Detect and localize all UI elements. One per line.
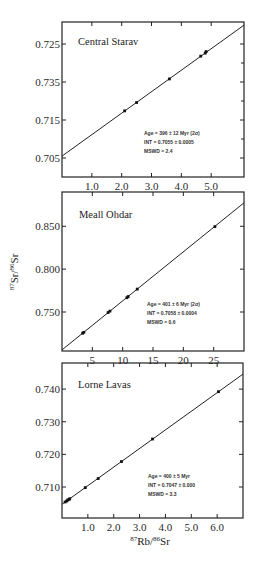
x-tick-label: 4.0 [174,180,188,192]
data-point [135,101,138,104]
axis-label-text: Sr [8,273,20,283]
data-point [213,225,216,228]
x-tick-label: 2.0 [107,521,121,533]
panel-meall-ohdar: Meall Ohdar5101520250.8500.8000.750Age =… [35,192,244,366]
x-tick-label: 4.0 [159,521,173,533]
y-tick-label: 0.705 [35,152,60,164]
y-tick-label: 0.740 [35,383,60,395]
x-tick-label: 5 [90,354,96,366]
stat-annotation: Age = 401 ± 6 Myr (2σ) [147,301,200,307]
panel-title: Meall Ohdar [79,209,133,220]
y-axis-label: 87Sr/86Sr [8,253,20,290]
data-point [82,331,85,334]
y-tick-label: 0.850 [35,220,60,232]
data-point [120,460,123,463]
x-tick-label: 6.0 [210,521,224,533]
panel-lorne-lavas: Lorne Lavas1.02.03.04.05.06.00.7400.7300… [35,363,243,533]
x-tick-label: 10 [117,354,129,366]
y-tick-label: 0.750 [35,306,60,318]
y-tick-label: 0.710 [35,481,60,493]
x-axis-label: 87Rb/86Sr [130,535,170,547]
panel-title: Lorne Lavas [78,379,131,390]
x-tick-label: 25 [208,354,220,366]
x-tick-label: 5.0 [184,521,198,533]
data-point [136,288,139,291]
x-tick-label: 1.0 [85,180,99,192]
stat-annotation: MSWD = 2.4 [144,148,173,154]
axis-label-text: Sr [8,253,20,263]
stat-annotation: MSWD = 0.6 [147,319,176,325]
data-point [109,310,112,313]
data-point [205,50,208,53]
y-tick-label: 0.800 [35,263,60,275]
x-tick-label: 1.0 [81,521,95,533]
axis-label-text: Rb [137,535,150,547]
stat-annotation: Age = 396 ± 12 Myr (2σ) [144,130,200,136]
y-tick-label: 0.725 [35,38,60,50]
stat-annotation: INT = 0.7058 ± 0.0004 [147,310,197,316]
x-tick-label: 15 [148,354,160,366]
data-point [68,497,71,500]
panel-central-starav: Central Starav1.02.03.04.05.00.7250.7350… [35,22,244,192]
y-tick-label: 0.730 [35,416,60,428]
isochron-figure: Central Starav1.02.03.04.05.00.7250.7350… [0,0,260,561]
data-point [217,390,220,393]
x-tick-label: 2.0 [115,180,129,192]
data-point [84,486,87,489]
x-tick-label: 20 [178,354,190,366]
data-point [151,438,154,441]
data-point [127,295,130,298]
isochron-line [62,203,244,350]
data-point [199,55,202,58]
stat-annotation: INT = 0.7055 ± 0.0005 [144,139,194,145]
axis-label-text: Sr [160,535,170,547]
data-point [123,109,126,112]
x-tick-label: 5.0 [204,180,218,192]
x-tick-label: 3.0 [145,180,159,192]
y-tick-label: 0.715 [35,114,60,126]
stat-annotation: Age = 400 ± 5 Myr [148,473,190,479]
data-point [97,477,100,480]
y-tick-label: 0.735 [35,76,60,88]
panel-title: Central Starav [78,36,139,47]
stat-annotation: INT = 0.7047 ± 0.000 [148,482,195,488]
stat-annotation: MSWD = 3.3 [148,491,177,497]
x-tick-label: 3.0 [133,521,147,533]
y-tick-label: 0.720 [35,448,60,460]
data-point [168,78,171,81]
